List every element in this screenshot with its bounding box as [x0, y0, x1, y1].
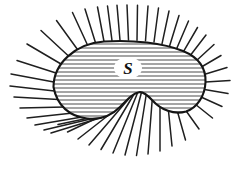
normal-ray	[20, 107, 65, 108]
normal-ray	[137, 5, 138, 40]
region-label-s: S	[123, 59, 132, 78]
region-diagram: S	[0, 0, 251, 174]
figure-canvas: S	[0, 0, 251, 174]
